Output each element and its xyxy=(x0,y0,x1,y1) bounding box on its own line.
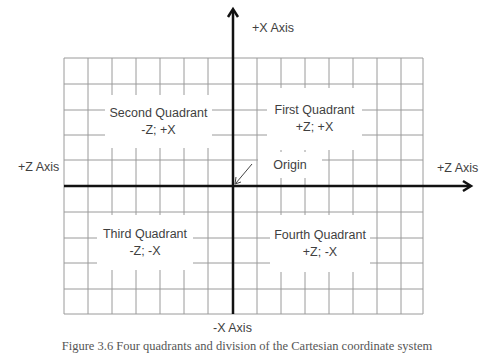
origin-pointer-arrow xyxy=(236,164,252,183)
x-negative-axis-label: -X Axis xyxy=(213,321,252,335)
z-right-axis-label: +Z Axis xyxy=(437,161,478,175)
x-positive-axis-label: +X Axis xyxy=(252,21,294,35)
figure-caption: Figure 3.6 Four quadrants and division o… xyxy=(0,339,494,354)
z-left-axis-label: +Z Axis xyxy=(18,160,59,174)
